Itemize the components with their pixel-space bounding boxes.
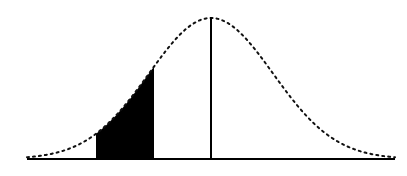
shaded-area	[96, 67, 154, 159]
normal-distribution-diagram	[0, 0, 407, 176]
bell-curve-figure	[0, 0, 407, 176]
